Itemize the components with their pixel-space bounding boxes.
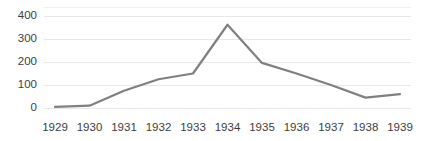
line-chart: 0100200300400 19291930193119321933193419… [0, 0, 425, 141]
y-tick-label: 400 [18, 9, 37, 21]
y-tick-label: 0 [31, 101, 37, 113]
data-series-line [55, 25, 400, 107]
x-axis-tick-labels: 1929193019311932193319341935193619371938… [42, 121, 413, 133]
x-tick-label: 1933 [180, 121, 206, 133]
x-tick-label: 1936 [284, 121, 310, 133]
y-tick-label: 300 [18, 32, 37, 44]
x-tick-label: 1934 [215, 121, 241, 133]
x-tick-label: 1931 [111, 121, 137, 133]
x-tick-label: 1932 [146, 121, 172, 133]
x-tick-label: 1939 [387, 121, 413, 133]
y-tick-label: 100 [18, 78, 37, 90]
y-axis-tick-labels: 0100200300400 [18, 9, 37, 113]
y-tick-label: 200 [18, 55, 37, 67]
x-tick-label: 1929 [42, 121, 68, 133]
x-tick-label: 1935 [249, 121, 275, 133]
chart-canvas: 0100200300400 19291930193119321933193419… [0, 0, 425, 141]
x-tick-label: 1930 [77, 121, 103, 133]
x-tick-label: 1938 [353, 121, 379, 133]
x-tick-label: 1937 [318, 121, 344, 133]
